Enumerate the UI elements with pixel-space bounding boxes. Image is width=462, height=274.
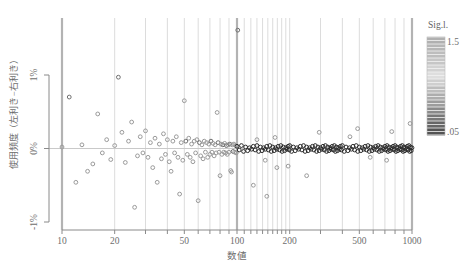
- x-tick-label: 50: [180, 236, 190, 246]
- data-point: [188, 155, 192, 159]
- data-point: [171, 139, 175, 143]
- data-point: [242, 150, 246, 154]
- y-tick-label: 1%: [29, 69, 39, 82]
- data-point: [67, 95, 71, 99]
- data-point: [273, 136, 277, 140]
- data-point: [160, 157, 164, 161]
- data-point: [123, 161, 127, 165]
- data-point: [146, 155, 150, 159]
- data-point: [133, 205, 137, 209]
- x-tick-label: 20: [110, 236, 120, 246]
- data-point: [251, 183, 255, 187]
- legend-max-label: 1.5: [447, 37, 459, 47]
- data-point: [100, 151, 104, 155]
- legend-min-label: .05: [447, 127, 459, 137]
- data-point: [120, 130, 124, 134]
- data-point: [215, 111, 219, 115]
- y-axis-title: 使用頻度（左利き−右利き）: [8, 55, 19, 168]
- data-point: [176, 155, 180, 159]
- data-point: [141, 151, 145, 155]
- data-point: [155, 180, 159, 184]
- data-point: [194, 151, 198, 155]
- data-point: [174, 135, 178, 139]
- data-point: [167, 160, 171, 164]
- data-point: [91, 162, 95, 166]
- x-tick-label: 200: [283, 236, 298, 246]
- data-point: [201, 157, 205, 161]
- data-point: [149, 141, 153, 145]
- y-tick-label: -1%: [29, 214, 39, 230]
- data-point: [179, 141, 183, 145]
- data-point: [151, 166, 155, 170]
- data-point: [162, 132, 166, 136]
- data-point: [130, 120, 134, 124]
- data-point: [138, 135, 142, 139]
- data-point: [240, 144, 244, 148]
- scatter-plot-canvas: 1020501002005001000数値1%0%-1%使用頻度（左利き−右利き…: [0, 0, 462, 274]
- data-point: [204, 150, 208, 154]
- scatter-plot-figure: 1020501002005001000数値1%0%-1%使用頻度（左利き−右利き…: [0, 0, 462, 274]
- data-point: [74, 180, 78, 184]
- data-point: [263, 158, 267, 162]
- data-point: [157, 142, 161, 146]
- x-axis-title: 数値: [227, 250, 247, 261]
- data-point: [127, 139, 131, 143]
- x-tick-label: 1000: [403, 236, 422, 246]
- data-point: [164, 152, 168, 156]
- data-point: [305, 174, 309, 178]
- y-tick-label: 0%: [29, 142, 39, 155]
- data-point: [173, 151, 177, 155]
- data-point: [348, 135, 352, 139]
- legend-title: Sig.l.: [428, 20, 448, 30]
- data-point: [86, 169, 90, 173]
- data-point: [96, 112, 100, 116]
- data-point: [368, 155, 372, 159]
- data-point: [191, 160, 195, 164]
- x-tick-label: 100: [230, 236, 245, 246]
- data-point: [187, 136, 191, 140]
- data-point: [200, 143, 204, 147]
- data-point: [80, 143, 84, 147]
- data-point: [109, 158, 113, 162]
- data-point: [390, 130, 394, 134]
- x-tick-label: 10: [57, 236, 67, 246]
- x-tick-label: 500: [352, 236, 367, 246]
- data-point: [105, 138, 109, 142]
- data-point: [178, 192, 182, 196]
- data-point: [136, 154, 140, 158]
- data-point: [116, 75, 120, 79]
- data-point: [169, 169, 173, 173]
- data-point: [153, 136, 157, 140]
